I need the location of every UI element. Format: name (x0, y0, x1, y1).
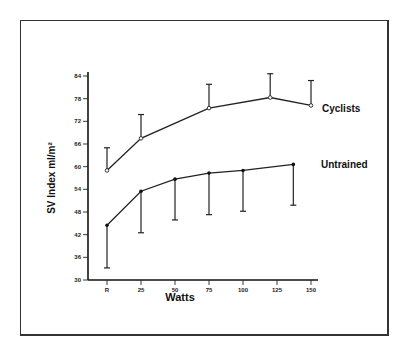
y-tick-label: 78 (74, 96, 81, 102)
x-tick-label: 25 (138, 287, 145, 293)
data-point-filled (139, 189, 143, 193)
line-chart: 30364248546066727884R255075100125150 Wat… (0, 0, 405, 355)
y-tick-label: 48 (74, 209, 81, 215)
data-point-filled (241, 169, 245, 173)
y-tick-label: 36 (74, 254, 81, 260)
data-point-open (268, 96, 272, 100)
y-tick-label: 60 (74, 164, 81, 170)
y-tick-label: 54 (74, 186, 81, 192)
series-label-untrained: Untrained (321, 159, 368, 170)
data-point-filled (105, 223, 109, 227)
x-tick-label: 150 (306, 287, 317, 293)
x-tick-label: 100 (238, 287, 249, 293)
data-point-filled (207, 171, 211, 175)
y-tick-label: 30 (74, 277, 81, 283)
series-line-untrained (107, 164, 293, 225)
y-axis-title: SV Index ml/m² (46, 141, 57, 213)
x-tick-label: 125 (272, 287, 283, 293)
data-point-filled (173, 177, 177, 181)
y-tick-label: 72 (74, 118, 81, 124)
series-label-cyclists: Cyclists (322, 103, 361, 114)
y-tick-label: 66 (74, 141, 81, 147)
y-tick-label: 84 (74, 73, 81, 79)
data-point-open (207, 106, 211, 110)
x-tick-label: R (105, 287, 110, 293)
axes: 30364248546066727884R255075100125150 (74, 72, 318, 293)
x-tick-label: 75 (206, 287, 213, 293)
series-group (104, 74, 314, 268)
y-tick-label: 42 (74, 232, 81, 238)
data-point-filled (292, 163, 296, 167)
data-point-open (309, 104, 313, 108)
data-point-open (139, 137, 143, 141)
x-axis-title: Watts (165, 291, 195, 303)
data-point-open (105, 169, 109, 173)
